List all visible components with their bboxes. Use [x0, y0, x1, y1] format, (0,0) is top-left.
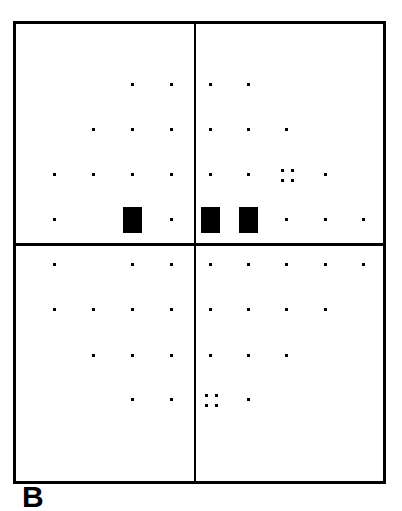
test-point-dot	[131, 173, 134, 176]
vertical-meridian-line	[194, 21, 196, 484]
test-point-dot	[362, 263, 365, 266]
cluster-dot	[291, 169, 294, 172]
test-point-dot	[131, 263, 134, 266]
test-point-dot	[247, 263, 250, 266]
test-point-dot	[131, 128, 134, 131]
cluster-dot	[291, 179, 294, 182]
test-point-dot	[170, 218, 173, 221]
test-point-dot	[209, 83, 212, 86]
test-point-dot	[170, 263, 173, 266]
test-point-dot	[131, 83, 134, 86]
test-point-dot	[247, 398, 250, 401]
test-point-dot	[131, 398, 134, 401]
test-point-dot	[131, 308, 134, 311]
cluster-dot	[215, 394, 218, 397]
test-point-dot	[209, 173, 212, 176]
test-point-dot	[247, 308, 250, 311]
test-point-dot	[285, 128, 288, 131]
test-point-dot	[170, 308, 173, 311]
test-point-dot	[53, 263, 56, 266]
cluster-dot	[215, 404, 218, 407]
cluster-dot	[281, 169, 284, 172]
test-point-dot	[92, 308, 95, 311]
panel-label: B	[22, 482, 44, 511]
test-point-dot	[53, 173, 56, 176]
defect-block	[239, 207, 258, 233]
cluster-dot	[281, 179, 284, 182]
test-point-dot	[53, 308, 56, 311]
test-point-dot	[53, 218, 56, 221]
test-point-dot	[285, 263, 288, 266]
test-point-dot	[324, 263, 327, 266]
test-point-dot	[170, 173, 173, 176]
test-point-dot	[170, 354, 173, 357]
test-point-dot	[362, 218, 365, 221]
test-point-dot	[209, 354, 212, 357]
test-point-dot	[209, 263, 212, 266]
cluster-dot	[205, 404, 208, 407]
test-point-dot	[285, 218, 288, 221]
test-point-dot	[92, 128, 95, 131]
test-point-dot	[247, 128, 250, 131]
cluster-dot	[205, 394, 208, 397]
test-point-dot	[170, 83, 173, 86]
test-point-dot	[324, 308, 327, 311]
test-point-dot	[324, 173, 327, 176]
test-point-dot	[285, 354, 288, 357]
test-point-dot	[170, 398, 173, 401]
test-point-dot	[209, 308, 212, 311]
test-point-dot	[131, 354, 134, 357]
visual-field-frame	[13, 21, 386, 484]
defect-block	[123, 207, 142, 233]
test-point-dot	[247, 173, 250, 176]
test-point-dot	[324, 218, 327, 221]
test-point-dot	[170, 128, 173, 131]
test-point-dot	[209, 128, 212, 131]
defect-block	[201, 207, 220, 233]
horizontal-meridian-line	[13, 243, 386, 246]
test-point-dot	[247, 354, 250, 357]
test-point-dot	[285, 308, 288, 311]
test-point-dot	[92, 354, 95, 357]
test-point-dot	[92, 173, 95, 176]
test-point-dot	[247, 83, 250, 86]
